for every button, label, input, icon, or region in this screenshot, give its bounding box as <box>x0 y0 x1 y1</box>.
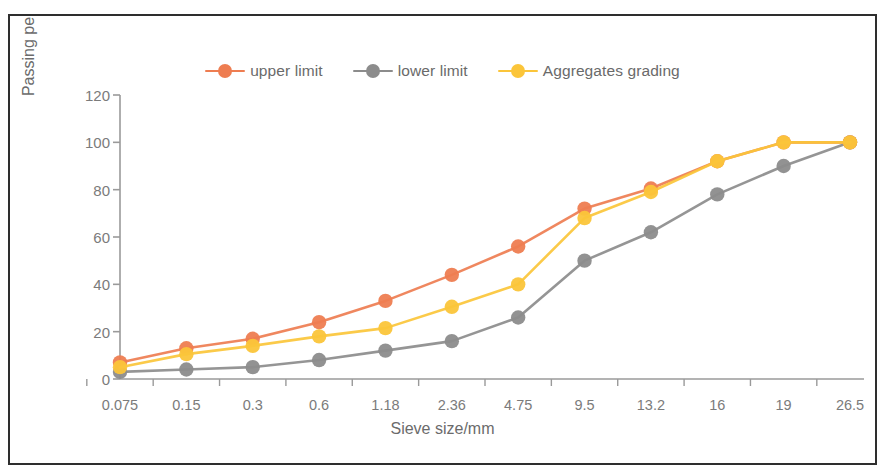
data-point[interactable] <box>577 253 591 267</box>
data-point[interactable] <box>843 135 857 149</box>
data-point[interactable] <box>776 135 790 149</box>
data-point[interactable] <box>378 343 392 357</box>
data-point[interactable] <box>776 159 790 173</box>
data-point[interactable] <box>511 239 525 253</box>
data-point[interactable] <box>179 362 193 376</box>
data-point[interactable] <box>246 360 260 374</box>
data-point[interactable] <box>445 300 459 314</box>
data-point[interactable] <box>179 347 193 361</box>
data-point[interactable] <box>246 339 260 353</box>
data-point[interactable] <box>445 268 459 282</box>
data-point[interactable] <box>644 225 658 239</box>
series-line <box>120 142 850 367</box>
series-aggregates-grading <box>113 135 857 374</box>
figure-frame: upper limitlower limitAggregates grading… <box>8 14 877 465</box>
plot-canvas <box>10 16 877 465</box>
data-point[interactable] <box>113 360 127 374</box>
series-upper-limit <box>113 135 857 369</box>
data-point[interactable] <box>378 294 392 308</box>
data-point[interactable] <box>378 321 392 335</box>
data-point[interactable] <box>511 310 525 324</box>
data-point[interactable] <box>577 211 591 225</box>
data-point[interactable] <box>312 353 326 367</box>
data-point[interactable] <box>312 315 326 329</box>
data-point[interactable] <box>445 334 459 348</box>
series-line <box>120 142 850 372</box>
data-point[interactable] <box>312 329 326 343</box>
data-point[interactable] <box>710 187 724 201</box>
data-point[interactable] <box>644 185 658 199</box>
data-point[interactable] <box>710 154 724 168</box>
grading-curve-chart: upper limitlower limitAggregates grading… <box>10 16 875 463</box>
data-point[interactable] <box>511 277 525 291</box>
